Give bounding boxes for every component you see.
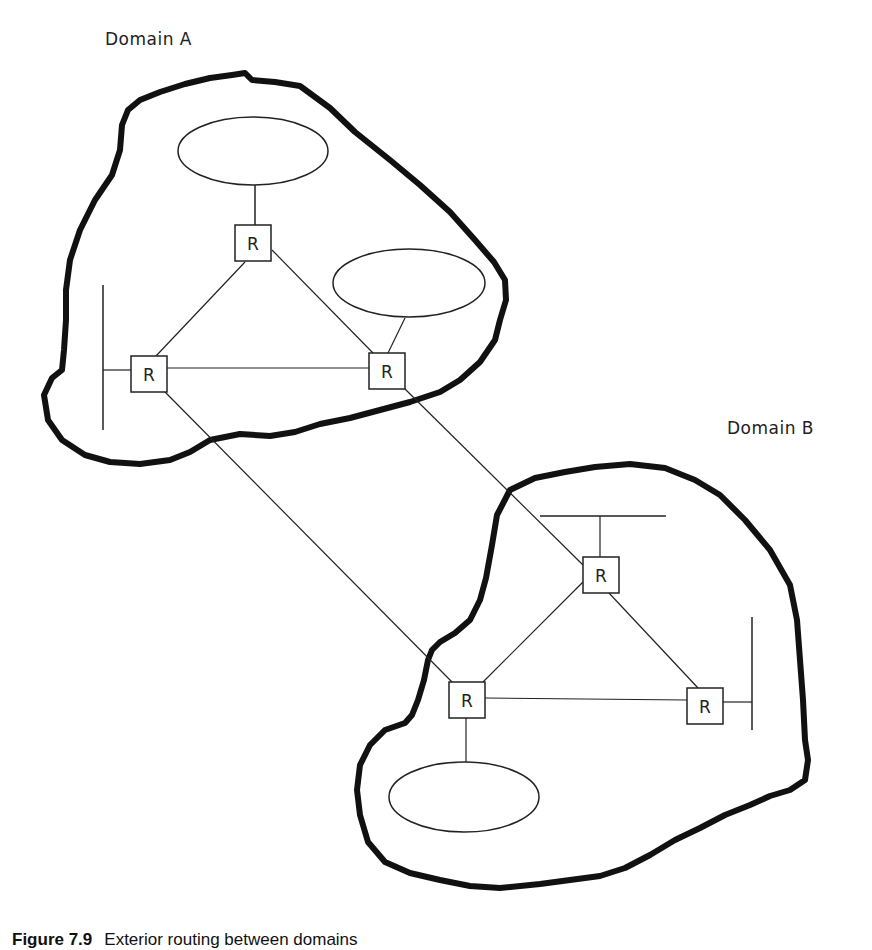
network-b-bottom [389, 762, 539, 832]
router-label: R [143, 365, 155, 385]
router-label: R [461, 691, 473, 711]
router-a-left: R [131, 356, 167, 392]
domain-b-boundary [357, 464, 808, 888]
router-a-right: R [369, 353, 405, 389]
network-a-top [178, 117, 328, 185]
link-a-top-right [272, 250, 373, 353]
router-a-top: R [235, 225, 271, 261]
router-label: R [381, 362, 393, 382]
link-b-left-right [485, 698, 687, 700]
router-b-left: R [449, 682, 485, 718]
link-b-top-left [483, 582, 583, 682]
domain-a-boundary [44, 73, 506, 464]
router-b-right: R [687, 688, 723, 724]
router-b-top: R [583, 557, 619, 593]
figure-caption: Figure 7.9Exterior routing between domai… [12, 930, 358, 950]
link-b-top-right [609, 593, 698, 688]
router-label: R [699, 697, 711, 717]
network-a-right [333, 249, 485, 317]
figure-number: Figure 7.9 [12, 930, 92, 949]
domain-b-label: Domain B [727, 418, 814, 438]
figure-caption-text: Exterior routing between domains [104, 930, 357, 949]
router-label: R [595, 566, 607, 586]
domain-a-label: Domain A [105, 29, 192, 49]
link-interdomain-1 [165, 392, 452, 682]
link-a-right-network [388, 318, 405, 353]
link-a-top-left [156, 262, 245, 356]
router-label: R [247, 234, 259, 254]
